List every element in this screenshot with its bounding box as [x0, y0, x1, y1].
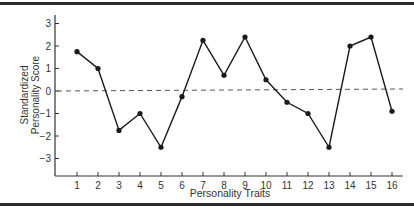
x-tick-label: 2: [95, 180, 101, 191]
data-point-marker: [242, 34, 247, 39]
data-point-marker: [137, 111, 142, 116]
series-line: [77, 37, 392, 147]
y-axis-label: Standardized Personality Score: [19, 56, 41, 134]
bottom-border-rule: [0, 203, 414, 206]
x-tick-label: 13: [323, 180, 335, 191]
data-point-marker: [368, 34, 373, 39]
y-axis-label-line-2: Personality Score: [30, 56, 41, 134]
data-point-marker: [284, 100, 289, 105]
y-tick-label: −1: [40, 108, 52, 119]
y-tick-label: −2: [40, 131, 52, 142]
data-point-marker: [389, 109, 394, 114]
zero-reference-line: [57, 89, 403, 91]
data-point-marker: [74, 49, 79, 54]
data-point-marker: [305, 111, 310, 116]
x-tick-label: 16: [386, 180, 398, 191]
y-tick-label: 1: [45, 63, 51, 74]
y-tick-label: 0: [45, 86, 51, 97]
data-point-marker: [221, 73, 226, 78]
x-tick-label: 6: [179, 180, 185, 191]
x-tick-label: 4: [137, 180, 143, 191]
x-tick-label: 14: [344, 180, 356, 191]
data-point-marker: [95, 66, 100, 71]
data-point-marker: [158, 145, 163, 150]
x-tick-label: 5: [158, 180, 164, 191]
data-point-marker: [179, 94, 184, 99]
line-chart: 3210−1−2−3 12345678910111213141516: [0, 0, 414, 210]
x-tick-label: 15: [365, 180, 377, 191]
data-series: [74, 34, 394, 149]
data-point-marker: [326, 145, 331, 150]
data-point-marker: [347, 43, 352, 48]
x-tick-label: 12: [302, 180, 314, 191]
x-tick-label: 1: [74, 180, 80, 191]
data-point-marker: [200, 38, 205, 43]
y-axis-label-line-1: Standardized: [19, 56, 30, 134]
x-tick-label: 3: [116, 180, 122, 191]
zero-dashed-line: [57, 89, 403, 91]
x-axis-label: Personality Traits: [190, 187, 271, 199]
y-tick-label: 2: [45, 41, 51, 52]
y-axis-ticks: 3210−1−2−3: [40, 18, 59, 164]
y-tick-label: −3: [40, 153, 52, 164]
x-tick-label: 11: [282, 180, 293, 191]
data-point-marker: [263, 77, 268, 82]
y-tick-label: 3: [45, 18, 51, 29]
data-point-marker: [116, 128, 121, 133]
